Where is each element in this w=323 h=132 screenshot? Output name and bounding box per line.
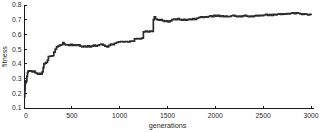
x-axis-label: generations <box>149 121 187 130</box>
tick-label: 0.5 <box>12 46 22 53</box>
tick-label: 0.6 <box>12 31 22 38</box>
y-axis-label: fitness <box>0 46 9 67</box>
fitness-vs-generations-figure: 050010001500200025003000 0.10.20.30.40.5… <box>0 0 323 132</box>
tick-label: 2500 <box>256 112 271 119</box>
fitness-curve-series <box>24 13 311 97</box>
y-tick-labels: 0.10.20.30.40.50.60.70.8 <box>12 1 22 111</box>
tick-label: 3000 <box>303 112 318 119</box>
tick-label: 1500 <box>160 112 175 119</box>
tick-label: 0 <box>24 112 28 119</box>
tick-label: 0.3 <box>12 75 22 82</box>
tick-label: 0.8 <box>12 1 22 8</box>
tick-label: 0.1 <box>12 104 22 111</box>
tick-label: 0.7 <box>12 16 22 23</box>
tick-label: 0.2 <box>12 90 22 97</box>
tick-label: 0.4 <box>12 60 22 67</box>
tick-label: 500 <box>66 112 78 119</box>
tick-label: 1000 <box>112 112 127 119</box>
tick-label: 2000 <box>208 112 223 119</box>
fitness-chart: 050010001500200025003000 0.10.20.30.40.5… <box>0 0 323 132</box>
x-tick-labels: 050010001500200025003000 <box>24 112 319 119</box>
